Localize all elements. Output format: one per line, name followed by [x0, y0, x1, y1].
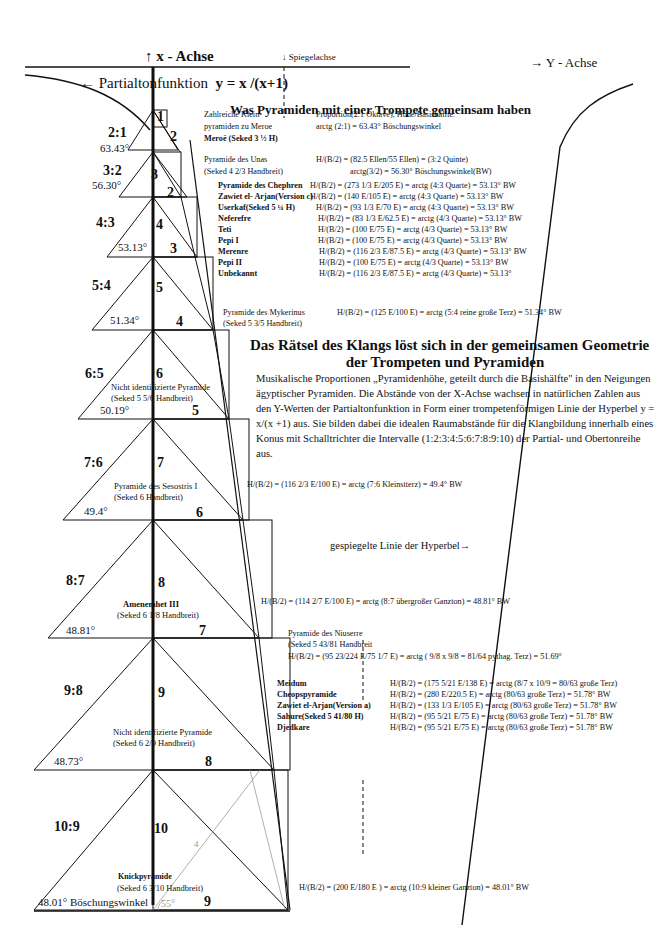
height-4: 4 — [156, 218, 163, 232]
subtitle-line1: Das Rätsel des Klangs löst sich in der g… — [250, 338, 640, 353]
height-3: 3 — [151, 168, 158, 182]
height-5: 5 — [156, 281, 163, 295]
angle-56: 56.30° — [92, 180, 121, 191]
unas-r2: arctg(3/2) = 56.30° Böschungswinkel(BW) — [350, 168, 492, 176]
half-base-8: 8 — [205, 755, 212, 769]
unas-l1: Pyramide des Unas — [204, 156, 267, 164]
pyramid-9-seked: (Seked 6 2/9 Handbreit) — [113, 739, 195, 748]
ratio-4-3: 4:3 — [96, 216, 115, 230]
mirrored-line-label: gespiegelte Linie der Hyperbel→ — [330, 541, 470, 552]
meroe-l1: Zahlreiche Klein- — [204, 111, 262, 119]
pyramid-9-name: Nicht identifizierte Pyramide — [113, 728, 212, 737]
height-7: 7 — [157, 456, 164, 470]
pyramid-6-seked: (Seked 5 5/6 Handbreit) — [111, 394, 193, 403]
meroe-r2: arctg (2:1) = 63.43° Böschungswinkel — [316, 123, 441, 131]
knick-formula: H/(B/2) = (200 E/180 E ) = arctg (10:9 k… — [299, 884, 529, 892]
niuserre-l1: Pyramide des Niuserre — [288, 630, 363, 638]
pyramid-7-seked: (Seked 6 Handbreit) — [114, 493, 183, 502]
unas-l2: (Seked 4 2/3 Handbreit) — [204, 168, 283, 176]
height-9: 9 — [158, 686, 165, 700]
pyramid-10-name: Knickpyramide — [118, 873, 172, 881]
angle-49: 49.4° — [84, 506, 108, 517]
half-base-6: 6 — [196, 506, 203, 520]
ratio-8-7: 8:7 — [66, 574, 85, 588]
subtitle-line2: der Trompeten und Pyramiden — [250, 355, 640, 370]
sesostris-formula: H/(B/2) = (116 2/3 E/100 E) = arctg (7:6… — [247, 481, 462, 489]
meroe-l2: pyramiden zu Meroe — [204, 123, 272, 131]
pyramid-8-name: Amenemhet III — [123, 600, 179, 609]
pencil-angle: 55° — [161, 899, 175, 909]
ratio-9-8: 9:8 — [64, 684, 83, 698]
pyramid-7-name: Pyramide des Sesostris I — [114, 482, 197, 491]
ratio-10-9: 10:9 — [54, 820, 80, 834]
mirror-axis-label: ↓ Spiegelachse — [282, 53, 336, 62]
ratio-7-6: 7:6 — [84, 456, 103, 470]
x-axis-label: ↑ x - Achse — [145, 49, 214, 64]
ratio-5-4: 5:4 — [92, 279, 111, 293]
niuserre-l2: (Seked 5 43/81 Handbreit — [288, 641, 372, 649]
pyramid-6-name: Nicht identifizierte Pyramide — [111, 383, 210, 392]
pencil-mark: 4 — [194, 840, 199, 849]
pyramid-10-seked: (Seked 6 3/10 Handbreit) — [117, 884, 203, 893]
angle-50: 50.19° — [100, 405, 129, 416]
ratio-3-2: 3:2 — [103, 164, 122, 178]
angle-51: 51.34° — [110, 315, 139, 326]
meroe-l3: Meroë (Seked 3 ½ H) — [204, 135, 278, 143]
half-base-7: 7 — [199, 624, 206, 638]
ratio-6-5: 6:5 — [85, 367, 104, 381]
half-base-2: 2 — [170, 130, 177, 144]
half-base-2b: 2 — [167, 186, 174, 200]
half-base-5: 5 — [192, 404, 199, 418]
angle-53: 53.13° — [118, 242, 147, 253]
function-label: ← Partialtonfunktion y = x /(x+1) — [80, 76, 288, 91]
pyramid-8-seked: (Seked 6 1/8 Handbreit) — [117, 611, 199, 620]
angle-48-73: 48.73° — [54, 756, 83, 767]
height-6: 6 — [156, 367, 163, 381]
mykerinus-formula: H/(B/2) = (125 E/100 E) = arctg (5:4 rei… — [337, 309, 562, 317]
y-axis-label: → Y - Achse — [530, 56, 597, 69]
angle-48-01: 48.01° Böschungswinkel — [38, 897, 148, 908]
height-1: 1 — [157, 110, 164, 124]
height-8: 8 — [158, 576, 165, 590]
angle-48-81: 48.81° — [66, 625, 95, 636]
angle-63: 63.43° — [100, 143, 129, 154]
niuserre-formula: H/(B/2) = (95 23/224 E/75 1/7 E) = arctg… — [288, 653, 562, 661]
ratio-2-1: 2:1 — [108, 126, 127, 140]
meroe-r1: Proportion(2:1 Oktave), Höhe/Basishälfte… — [316, 111, 455, 119]
explanation-paragraph: Musikalische Proportionen „Pyramidenhöhe… — [256, 371, 656, 461]
half-base-4: 4 — [176, 315, 183, 329]
half-base-3: 3 — [170, 242, 177, 256]
mykerinus-l1: Pyramide des Mykerinus — [223, 309, 305, 317]
amenemhet-formula: H/(B/2) = (114 2/7 E/100 E) = arctg (8:7… — [261, 598, 510, 606]
height-10: 10 — [154, 822, 168, 836]
mykerinus-l2: (Seked 5 3/5 Handbreit) — [223, 320, 302, 328]
unas-r1: H/(B/2) = (82.5 Ellen/55 Ellen) = (3:2 Q… — [316, 156, 468, 164]
half-base-9: 9 — [204, 895, 211, 909]
